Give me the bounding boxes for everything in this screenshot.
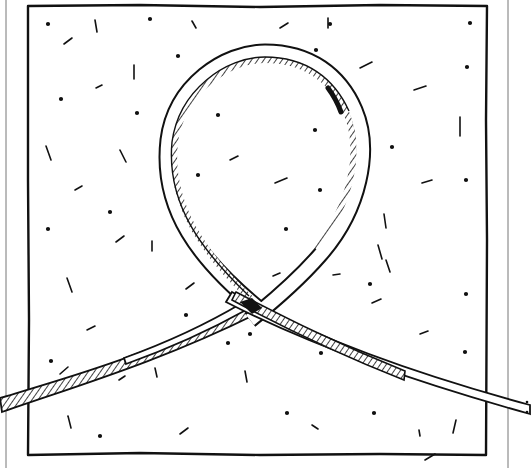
speckle-dot: [47, 23, 50, 26]
speckle-dot: [373, 412, 376, 415]
speckle-dot: [465, 179, 468, 182]
speckle-dash: [419, 430, 420, 436]
speckle-dot: [369, 283, 372, 286]
speckle-dot: [320, 352, 323, 355]
speckle-dot: [285, 228, 288, 231]
square-panel: [28, 5, 487, 455]
speckle-dot: [99, 435, 102, 438]
speckle-dot: [136, 112, 139, 115]
speckle-dot: [50, 360, 53, 363]
ribbon-illustration: [0, 0, 531, 468]
speckle-dot: [177, 55, 180, 58]
speckle-dot: [319, 189, 322, 192]
speckle-dot: [249, 333, 252, 336]
speckle-dot: [391, 146, 394, 149]
speckle-dot: [465, 293, 468, 296]
speckle-dot: [314, 129, 317, 132]
speckle-dot: [227, 342, 230, 345]
speckle-dot: [185, 314, 188, 317]
speckle-dash: [333, 274, 340, 275]
speckle-dot: [466, 66, 469, 69]
speckle-dot: [60, 98, 63, 101]
speckle-dot: [47, 228, 50, 231]
speckle-dot: [286, 412, 289, 415]
speckle-dot: [217, 114, 220, 117]
speckle-dot: [315, 49, 318, 52]
speckle-dot: [469, 22, 472, 25]
speckle-dot: [464, 351, 467, 354]
speckle-dot: [329, 23, 332, 26]
speckle-dot: [109, 211, 112, 214]
speckle-dot: [149, 18, 152, 21]
speckle-dot: [197, 174, 200, 177]
